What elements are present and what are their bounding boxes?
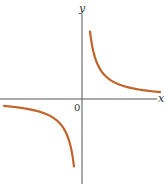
branch-quadrant-III-curve [4, 106, 74, 167]
x-axis-label: x [158, 93, 164, 104]
y-axis-label: y [79, 3, 85, 14]
origin-label: 0 [74, 103, 80, 113]
hyperbola-chart [0, 0, 166, 190]
branch-quadrant-I-curve [90, 32, 160, 93]
